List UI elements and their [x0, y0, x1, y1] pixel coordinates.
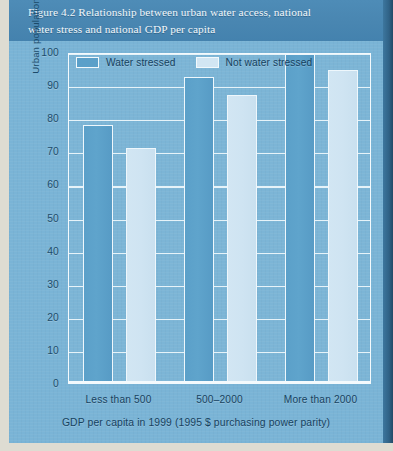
y-tick-label-10: 10 [11, 345, 59, 356]
paper-left-margin [0, 0, 9, 451]
legend-label-water-stressed: Water stressed [106, 57, 176, 68]
y-tick-label-0: 0 [11, 378, 59, 389]
legend-item-water-stressed: Water stressed [76, 57, 176, 68]
figure-page: Figure 4.2 Relationship between urban wa… [0, 0, 393, 451]
paper-bottom-margin [0, 443, 393, 451]
legend-label-not-water-stressed: Not water stressed [226, 57, 313, 68]
x-category-label-1: Less than 500 [68, 394, 169, 405]
y-tick-label-80: 80 [11, 113, 59, 124]
legend-swatch-water-stressed [76, 57, 99, 68]
figure-title-line-1: Figure 4.2 Relationship between urban wa… [28, 4, 369, 21]
y-tick-label-100: 100 [11, 47, 59, 58]
y-tick-label-20: 20 [11, 312, 59, 323]
bar-water-stressed-2 [184, 77, 214, 383]
bar-water-stressed-1 [83, 125, 113, 383]
legend-item-not-water-stressed: Not water stressed [196, 57, 313, 68]
chart-legend: Water stressed Not water stressed [76, 57, 312, 68]
plot-inner [69, 54, 370, 383]
bar-water-stressed-3 [285, 54, 315, 383]
figure-title-band: Figure 4.2 Relationship between urban wa… [9, 0, 383, 41]
x-category-label-2: 500–2000 [169, 394, 270, 405]
y-tick-label-70: 70 [11, 146, 59, 157]
figure-title-line-2: water stress and national GDP per capita [28, 21, 369, 38]
bar-not-water-stressed-3 [328, 70, 358, 383]
figure-block: Figure 4.2 Relationship between urban wa… [9, 0, 383, 444]
y-tick-label-40: 40 [11, 246, 59, 257]
y-tick-label-30: 30 [11, 279, 59, 290]
bar-series-group [69, 54, 370, 383]
plot-area [68, 53, 371, 384]
y-tick-label-60: 60 [11, 179, 59, 190]
page-edge-shadow [383, 0, 393, 445]
x-category-label-3: More than 2000 [270, 394, 371, 405]
legend-swatch-not-water-stressed [196, 57, 219, 68]
x-axis-title: GDP per capita in 1999 (1995 $ purchasin… [9, 417, 383, 428]
bar-not-water-stressed-2 [227, 95, 257, 383]
x-axis-line [69, 381, 370, 383]
y-tick-label-50: 50 [11, 213, 59, 224]
bar-not-water-stressed-1 [126, 148, 156, 383]
y-tick-label-90: 90 [11, 80, 59, 91]
